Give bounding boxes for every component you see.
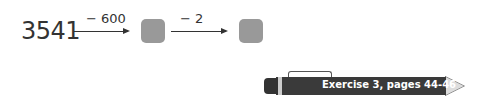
- operation-label-2: − 2: [180, 11, 203, 26]
- pencil-reference: Exercise 3, pages 44-46: [264, 77, 464, 95]
- pencil-clip-icon: [288, 71, 332, 77]
- start-number: 3541: [21, 17, 80, 45]
- exercise-reference-label: Exercise 3, pages 44-46: [322, 79, 456, 90]
- arrow-1: [74, 31, 128, 32]
- arrow-2: [171, 31, 226, 32]
- pencil-cap-icon: [264, 78, 278, 94]
- answer-box-2[interactable]: [239, 19, 263, 43]
- answer-box-1[interactable]: [141, 19, 165, 43]
- operation-label-1: − 600: [86, 11, 126, 26]
